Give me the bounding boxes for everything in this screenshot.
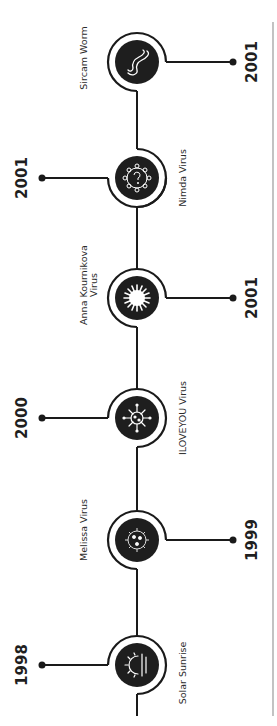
event-label-sircam: Sircam Worm [79,26,89,89]
node-melissa-virus [108,511,237,569]
year-label-solar: 1998 [13,644,31,686]
event-label-melissa: Melissa Virus [79,499,89,561]
year-dot [230,537,237,544]
node-solar-sunrise [39,636,167,694]
timeline-graphics [0,0,277,726]
year-dot [39,662,46,669]
year-label-sircam: 2001 [243,41,261,83]
year-dot [230,59,237,66]
event-label-anna: Anna Kournikova Virus [79,245,99,325]
year-dot [230,295,237,302]
node-iloveyou-virus [39,389,167,447]
year-label-iloveyou: 2000 [13,397,31,439]
event-label-nimda: Nimda Virus [178,149,188,207]
starburst-icon [124,285,150,311]
year-dot [39,175,46,182]
node-anna-kournikova-virus [108,269,237,327]
event-label-iloveyou: ILOVEYOU Virus [178,381,188,455]
year-label-anna: 2001 [243,277,261,319]
year-label-melissa: 1999 [243,519,261,561]
event-label-solar: Solar Sunrise [178,642,188,705]
timeline-diagram: 2001 2001 2001 2000 1999 1998 Sircam Wor… [0,0,277,726]
event-label-anna-line2: Virus [89,245,99,325]
node-sircam-worm [108,33,237,91]
year-label-nimda: 2001 [13,157,31,199]
year-dot [39,415,46,422]
node-nimda-virus [39,149,167,207]
